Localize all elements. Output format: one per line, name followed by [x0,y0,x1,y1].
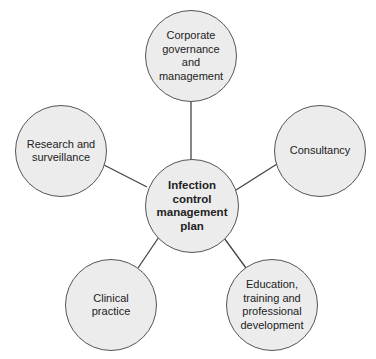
node-label: Consultancy [290,144,351,158]
node-center-plan: Infection control management plan [145,159,239,253]
node-consultancy: Consultancy [274,105,366,197]
node-clinical-practice: Clinical practice [65,259,157,351]
node-corporate-governance: Corporate governance and management [145,10,237,102]
node-research: Research and surveillance [15,105,107,197]
connector-consultancy [236,164,277,190]
node-label: Research and surveillance [27,138,96,165]
node-label: Corporate governance and management [159,29,223,83]
node-label: Clinical practice [92,292,131,319]
connector-research [104,165,147,187]
node-label: Education, training and professional dev… [241,278,304,332]
center-label: Infection control management plan [157,179,228,233]
node-education: Education, training and professional dev… [226,259,318,351]
